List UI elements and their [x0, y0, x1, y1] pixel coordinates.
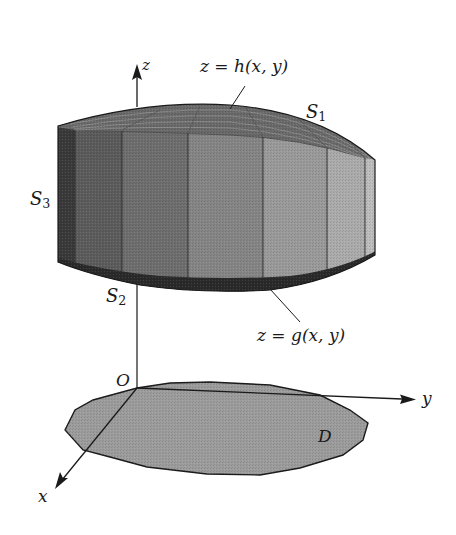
top-surface-label: S1 [306, 103, 326, 124]
s1-name: S [306, 101, 318, 122]
s2-name: S [106, 285, 118, 306]
bottom-surface-label: S2 [106, 287, 126, 308]
lateral-surface-label: S3 [30, 190, 50, 211]
x-axis-label: x [38, 488, 48, 505]
solid-body [50, 95, 390, 305]
s3-subscript: 3 [42, 196, 50, 211]
s3-name: S [30, 188, 42, 209]
diagram-canvas [0, 0, 456, 535]
s1-subscript: 1 [318, 109, 326, 124]
z-axis-label: z [142, 58, 150, 73]
origin-label: O [116, 372, 130, 389]
leader-line-g [270, 289, 300, 322]
region-d-label: D [318, 428, 332, 445]
y-axis-label: y [422, 390, 432, 407]
s2-subscript: 2 [118, 293, 126, 308]
y-axis-arrow-icon [400, 395, 416, 405]
top-surface-equation: z = h(x, y) [200, 58, 288, 75]
bottom-surface-equation: z = g(x, y) [257, 327, 345, 344]
